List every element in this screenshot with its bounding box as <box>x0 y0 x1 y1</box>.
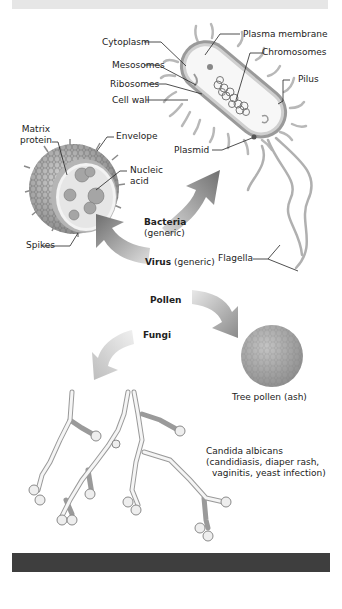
label-chromosomes: Chromosomes <box>262 47 326 58</box>
caption-bacteria: Bacteria (generic) <box>144 217 186 239</box>
caption-fungi: Fungi <box>143 330 171 341</box>
label-nucleic-acid: Nucleic acid <box>130 165 163 187</box>
label-mesosomes: Mesosomes <box>112 60 165 71</box>
arrow-to-virus <box>96 214 150 264</box>
label-flagella: Flagella <box>218 253 253 264</box>
label-cytoplasm: Cytoplasm <box>102 37 150 48</box>
arrow-to-fungi <box>92 330 134 380</box>
label-cell-wall: Cell wall <box>112 95 150 106</box>
caption-virus: Virus (generic) <box>145 257 215 268</box>
caption-pollen: Pollen <box>150 295 181 306</box>
label-envelope: Envelope <box>116 131 158 142</box>
label-ribosomes: Ribosomes <box>110 79 159 90</box>
label-spikes: Spikes <box>26 240 55 251</box>
pollen-illustration <box>241 325 303 387</box>
footer-bar <box>12 553 330 572</box>
label-pilus: Pilus <box>298 74 319 85</box>
label-matrix-protein: Matrix protein <box>20 124 52 146</box>
label-candida: Candida albicans (candidiasis, diaper ra… <box>206 446 326 479</box>
arrow-to-pollen <box>192 290 238 338</box>
label-plasma-membrane: Plasma membrane <box>243 29 328 40</box>
label-tree-pollen: Tree pollen (ash) <box>232 392 307 403</box>
label-plasmid: Plasmid <box>174 145 209 156</box>
